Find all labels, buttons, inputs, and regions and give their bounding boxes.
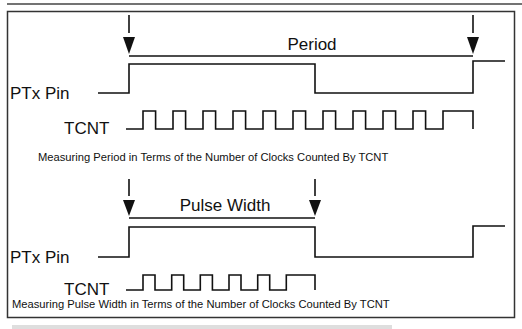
capture-arrow-icon: [467, 15, 479, 54]
pulse-width-label: Pulse Width: [180, 196, 271, 215]
tcnt-clock-waveform: [126, 111, 473, 129]
tcnt-label: TCNT: [64, 280, 109, 299]
period-section: Period PTx Pin TCNT Measuring Period in …: [10, 15, 505, 163]
capture-arrow-icon: [123, 15, 135, 54]
ptx-pin-waveform: [98, 226, 505, 257]
capture-arrow-icon: [309, 179, 321, 216]
ptx-pin-label: PTx Pin: [10, 84, 70, 103]
figure-frame: [8, 12, 515, 318]
ptx-pin-label: PTx Pin: [10, 248, 70, 267]
pulse-width-section: Pulse Width PTx Pin TCNT Measuring Pulse…: [10, 179, 505, 310]
ptx-pin-waveform: [98, 61, 505, 93]
tcnt-label: TCNT: [64, 119, 109, 138]
timing-diagram: Period PTx Pin TCNT Measuring Period in …: [0, 0, 522, 329]
period-label: Period: [287, 35, 336, 54]
clipped-figure-caption: [12, 325, 392, 329]
period-caption: Measuring Period in Terms of the Number …: [38, 151, 388, 163]
capture-arrow-icon: [123, 179, 135, 216]
pulse-width-caption: Measuring Pulse Width in Terms of the Nu…: [12, 298, 390, 310]
tcnt-clock-waveform: [126, 275, 315, 290]
